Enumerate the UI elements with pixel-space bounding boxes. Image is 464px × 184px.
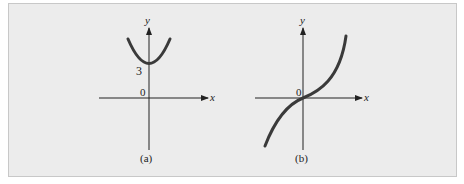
panel-a-y-label: y <box>145 15 150 26</box>
panel-b-origin-label: 0 <box>296 87 302 98</box>
panel-a-caption: (a) <box>140 153 152 164</box>
panel-b-y-label: y <box>300 15 305 26</box>
figure-graphics <box>0 0 464 184</box>
panel-b-cubic-curve <box>265 36 346 146</box>
panel-a-origin-label: 0 <box>140 87 146 98</box>
panel-b-caption: (b) <box>295 153 308 164</box>
panel-a <box>99 28 208 150</box>
panel-b <box>255 28 362 150</box>
panel-a-x-label: x <box>210 92 215 103</box>
panel-a-intercept-label: 3 <box>136 65 142 77</box>
panel-b-x-label: x <box>364 92 369 103</box>
